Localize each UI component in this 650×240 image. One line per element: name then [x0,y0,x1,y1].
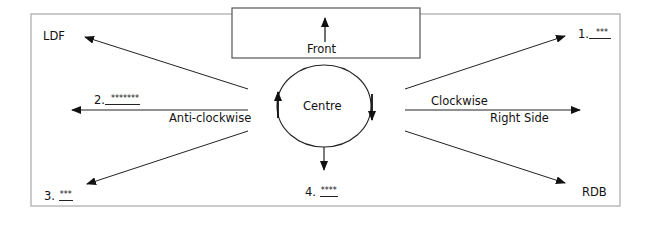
arrow-to-rdb [405,131,565,183]
rdb-label: RDB [582,186,607,199]
blank-3-field[interactable]: *** [59,190,73,201]
anticlockwise-label: Anti-clockwise [169,112,251,125]
blank-2-number: 2. [94,93,105,107]
clockwise-label: Clockwise [431,95,488,108]
blank-4-number: 4. [305,185,316,199]
blank-1-number: 1. [578,27,589,41]
blank-2: 2.******* [94,94,140,107]
arrow-to-ldf [85,37,248,89]
arrow-to-blank-3 [87,131,248,184]
blank-2-field[interactable]: ******* [105,94,140,105]
arrow-to-blank-1 [405,36,565,89]
blank-1-field[interactable]: *** [589,28,611,39]
ldf-label: LDF [43,30,65,43]
front-label: Front [307,43,336,56]
blank-4-field[interactable]: **** [320,186,338,197]
blank-1: 1.*** [578,28,611,41]
right-side-label: Right Side [490,112,549,125]
centre-label: Centre [303,100,341,113]
blank-3-number: 3. [44,189,55,203]
blank-4: 4. **** [305,186,338,199]
blank-3: 3. *** [44,190,73,203]
